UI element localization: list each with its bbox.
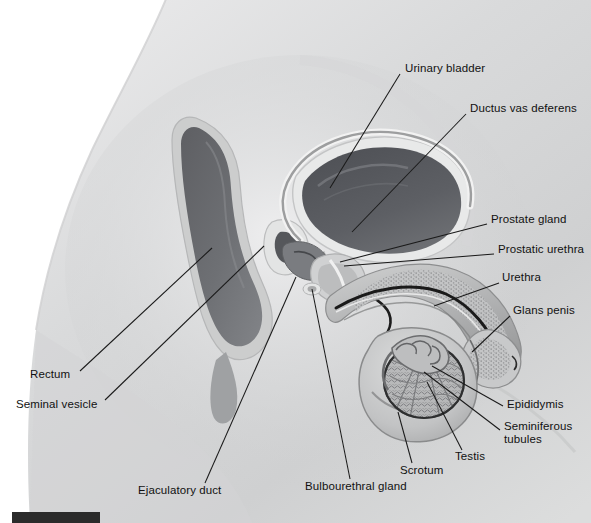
label-scrotum: Scrotum bbox=[400, 464, 444, 477]
label-epididymis: Epididymis bbox=[507, 398, 564, 411]
anatomical-figure: Urinary bladder Ductus vas deferens Pros… bbox=[0, 0, 591, 523]
label-seminal-vesicle: Seminal vesicle bbox=[16, 398, 97, 411]
anatomy-illustration bbox=[0, 0, 591, 523]
label-ductus-vas-deferens: Ductus vas deferens bbox=[470, 102, 577, 115]
label-testis: Testis bbox=[455, 450, 485, 463]
marker-bar bbox=[12, 512, 100, 523]
label-seminiferous-tubules: Seminiferous tubules bbox=[504, 420, 572, 446]
label-bulbourethral-gland: Bulbourethral gland bbox=[305, 480, 407, 493]
label-prostatic-urethra: Prostatic urethra bbox=[498, 243, 584, 256]
label-ejaculatory-duct: Ejaculatory duct bbox=[138, 484, 221, 497]
label-urethra: Urethra bbox=[502, 271, 541, 284]
label-glans-penis: Glans penis bbox=[513, 304, 575, 317]
label-prostate-gland: Prostate gland bbox=[491, 213, 567, 226]
label-urinary-bladder: Urinary bladder bbox=[405, 62, 485, 75]
label-rectum: Rectum bbox=[30, 368, 70, 381]
